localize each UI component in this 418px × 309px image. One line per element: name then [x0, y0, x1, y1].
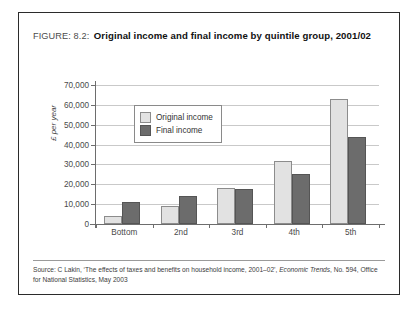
x-axis-tick — [96, 224, 97, 228]
bar-group — [96, 85, 153, 224]
x-axis-label-4th: 4th — [266, 228, 322, 237]
bar-4th-final[interactable] — [292, 174, 310, 224]
bar-group — [322, 85, 379, 224]
y-axis-tick-label: 40,000 — [64, 140, 89, 149]
x-axis-tick — [379, 224, 380, 228]
y-axis-label: £ per year — [49, 105, 58, 141]
figure-number-label: FIGURE: 8.2: — [33, 31, 89, 41]
source-divider — [33, 260, 385, 261]
source-note: Source: C Lakin, ‘The effects of taxes a… — [33, 265, 385, 285]
bar-5th-original[interactable] — [330, 99, 348, 224]
y-axis-tick-label: 60,000 — [64, 100, 89, 109]
bar-group — [266, 85, 323, 224]
figure-title-block: FIGURE: 8.2: Original income and final i… — [33, 23, 385, 44]
y-axis-tick-label: 70,000 — [64, 81, 89, 90]
x-axis-label-5th: 5th — [323, 228, 379, 237]
y-axis-tick-label: 20,000 — [64, 180, 89, 189]
y-axis-tick-label: 50,000 — [64, 120, 89, 129]
figure-container: FIGURE: 8.2: Original income and final i… — [18, 12, 400, 295]
bar-bottom-original[interactable] — [104, 216, 122, 224]
bar-group — [153, 85, 210, 224]
bar-bottom-final[interactable] — [122, 202, 140, 224]
x-axis-label-3rd: 3rd — [210, 228, 266, 237]
chart-plot-area: Original incomeFinal income 010,00020,00… — [96, 85, 379, 224]
bar-3rd-original[interactable] — [217, 188, 235, 224]
bar-3rd-final[interactable] — [235, 189, 253, 224]
figure-title: Original income and final income by quin… — [94, 30, 371, 41]
y-axis-tick-label: 10,000 — [64, 200, 89, 209]
bar-4th-original[interactable] — [274, 161, 292, 224]
bar-2nd-original[interactable] — [161, 206, 179, 224]
x-axis-line — [90, 224, 385, 225]
y-axis-tick-label: 0 — [84, 220, 89, 229]
x-axis-label-bottom: Bottom — [96, 228, 152, 237]
bar-5th-final[interactable] — [348, 137, 366, 224]
source-text: Source: C Lakin, ‘The effects of taxes a… — [33, 266, 279, 273]
source-publication: Economic Trends — [279, 266, 330, 273]
x-axis-label-2nd: 2nd — [153, 228, 209, 237]
bar-2nd-final[interactable] — [179, 196, 197, 224]
bar-group — [209, 85, 266, 224]
y-axis-tick-label: 30,000 — [64, 160, 89, 169]
